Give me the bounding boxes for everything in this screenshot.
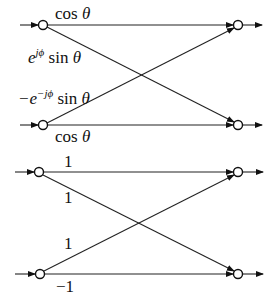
label-top-straight: cos θ — [55, 4, 90, 23]
node-output-top — [234, 168, 243, 177]
label-top-cross: ejϕ sin θ — [28, 46, 81, 67]
label-bottom-cross: −e−jϕ sin θ — [18, 87, 90, 108]
node-input-bottom — [39, 121, 48, 130]
node-output-bottom — [234, 121, 243, 130]
node-input-top — [39, 21, 48, 30]
label-top-straight: 1 — [64, 152, 73, 171]
node-input-bottom — [36, 270, 45, 279]
node-output-bottom — [234, 270, 243, 279]
edge-bottom-to-top — [47, 28, 234, 123]
label-top-cross: 1 — [64, 188, 73, 207]
butterfly-diagram-1: cos θ ejϕ sin θ −e−jϕ sin θ cos θ — [18, 4, 262, 146]
label-bottom-straight: −1 — [56, 277, 74, 296]
label-bottom-straight: cos θ — [55, 127, 90, 146]
node-output-top — [234, 21, 243, 30]
node-input-top — [35, 168, 44, 177]
label-bottom-cross: 1 — [64, 234, 73, 253]
butterfly-diagram-2: 1 1 1 −1 — [15, 152, 263, 296]
signal-flow-diagrams: cos θ ejϕ sin θ −e−jϕ sin θ cos θ 1 1 1 … — [0, 0, 279, 307]
